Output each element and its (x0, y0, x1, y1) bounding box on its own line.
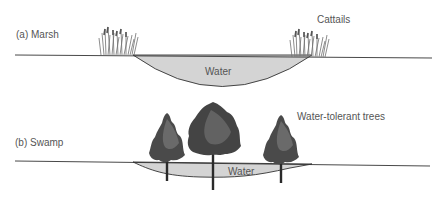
marsh-panel-label: (a) Marsh (16, 29, 59, 40)
cattail-icon-left (99, 27, 138, 55)
swamp-water-label: Water (228, 166, 255, 177)
marsh-water-label: Water (205, 66, 232, 77)
cattail-icon-right (290, 29, 329, 57)
cattails-label: Cattails (317, 14, 350, 25)
diagram-canvas: Water Water (0, 0, 441, 202)
marsh-panel: Water (15, 27, 432, 87)
water-tolerant-trees-label: Water-tolerant trees (297, 111, 385, 122)
swamp-panel-label: (b) Swamp (15, 137, 63, 148)
